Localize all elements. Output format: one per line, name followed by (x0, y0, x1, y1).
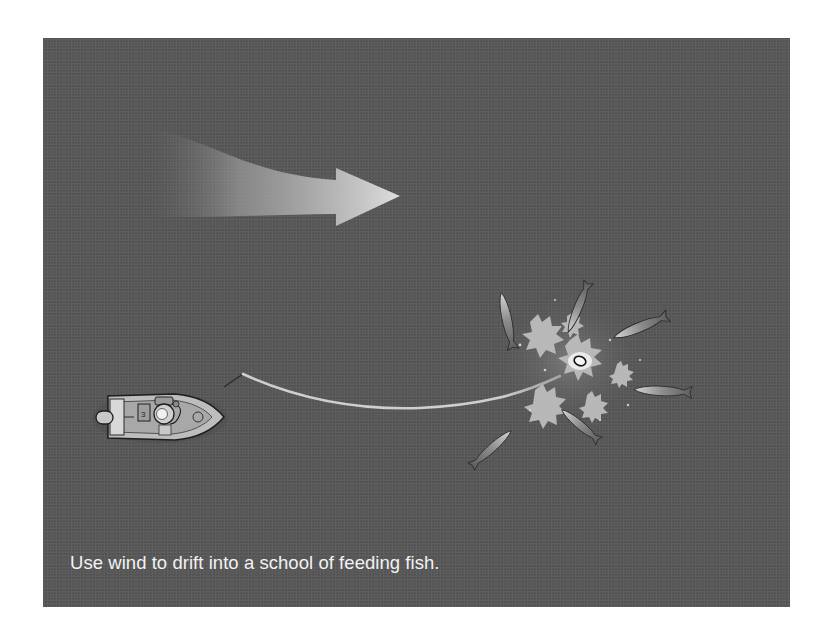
boat-icon: 3 (92, 393, 228, 443)
wind-arrow-icon (150, 128, 400, 226)
fish-icon (468, 427, 515, 471)
caption-text: Use wind to drift into a school of feedi… (70, 552, 440, 574)
svg-text:3: 3 (141, 410, 146, 419)
lure-icon (568, 352, 592, 370)
scene-illustration: 3 (0, 0, 831, 642)
